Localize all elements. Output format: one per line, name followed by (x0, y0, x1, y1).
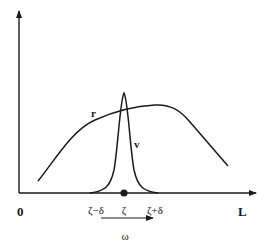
diagram-canvas: 0 L r v ζ−δ ζ ζ+δ ω (0, 0, 264, 250)
curve-r (38, 105, 228, 181)
tick-zeta: ζ (122, 204, 127, 217)
x-end-label: L (238, 204, 247, 219)
zeta-point (120, 189, 127, 196)
origin-label: 0 (17, 204, 24, 219)
tick-zeta-minus-delta: ζ−δ (88, 204, 104, 217)
curve-v-label: v (134, 138, 140, 150)
curve-v (90, 93, 158, 193)
curve-r-label: r (91, 107, 96, 119)
omega-label: ω (121, 230, 128, 242)
tick-zeta-plus-delta: ζ+δ (147, 204, 163, 217)
